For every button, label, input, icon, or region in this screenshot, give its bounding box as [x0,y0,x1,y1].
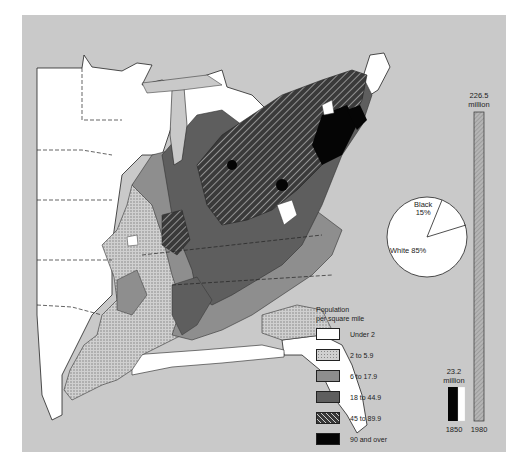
legend-item-18-to-44.9: 18 to 44.9 [316,387,436,407]
swatch-black [316,433,340,445]
map-legend: Population per square mile Under 2 2 to … [316,305,436,449]
swatch-white [316,328,340,340]
bar-1850-value: 23.2 million [436,367,472,385]
bar-1850-black [448,387,458,421]
legend-title: Population per square mile [316,305,436,323]
pie-label-white: White 85% [390,247,426,255]
legend-item-45-to-89.9: 45 to 89.9 [316,408,436,428]
pie-label-black: Black 15% [414,201,432,217]
legend-item-2-to-5.9: 2 to 5.9 [316,345,436,365]
swatch-dark-gray [316,391,340,403]
bar-1850-year: 1850 [440,425,468,434]
bar-1980-year: 1980 [465,425,493,434]
bar-1980 [474,112,484,421]
legend-item-6-to-17.9: 6 to 17.9 [316,366,436,386]
legend-item-under-2: Under 2 [316,324,436,344]
bar-1850-white [458,387,465,421]
swatch-medium-gray [316,370,340,382]
bar-1980-value: 226.5 million [461,91,497,109]
legend-item-90-and-over: 90 and over [316,429,436,449]
swatch-hatched [316,412,340,424]
swatch-dotted [316,349,340,361]
